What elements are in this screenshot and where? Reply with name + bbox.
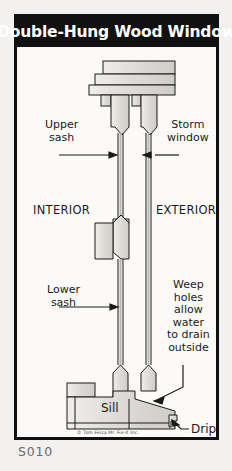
- interior-stop: [67, 383, 95, 397]
- label-exterior: EXTERIOR: [156, 204, 216, 217]
- leader-storm-window: [143, 152, 179, 158]
- label-lower-sash: Lower sash: [47, 284, 80, 309]
- leader-upper-sash: [59, 152, 117, 158]
- storm-bottom-rail: [141, 365, 156, 391]
- upper-sash-glazing-channel: [118, 133, 123, 219]
- label-weep-holes: Weep holes allow water to drain outside: [167, 279, 210, 354]
- label-storm-window: Storm window: [167, 119, 209, 144]
- lower-sash-glazing-channel: [118, 259, 123, 365]
- window-cross-section-illustration: Upper sash Storm window INTERIOR EXTERIO…: [17, 47, 216, 437]
- figure-code: S010: [18, 444, 53, 459]
- storm-window-top-rail: [141, 95, 157, 135]
- diagram-card: Double-Hung Wood Window: [14, 14, 219, 440]
- head-jamb-assembly: [89, 61, 175, 95]
- storm-window-glazing-channel: [146, 133, 151, 365]
- meeting-rail-upper: [113, 219, 129, 259]
- upper-sash-top-rail: [111, 95, 129, 135]
- window-diagram-svg: [17, 47, 216, 437]
- credit-line: © Tom Feiza Mr. Fix-It Inc.: [77, 430, 139, 435]
- label-upper-sash: Upper sash: [45, 119, 78, 144]
- label-sill: Sill: [101, 402, 119, 415]
- title-banner: Double-Hung Wood Window: [17, 17, 216, 47]
- leader-weep-holes: [154, 365, 183, 404]
- page-title: Double-Hung Wood Window: [0, 23, 232, 41]
- label-drip: Drip: [191, 423, 216, 436]
- label-interior: INTERIOR: [33, 204, 90, 217]
- meeting-rail-lower: [95, 223, 113, 259]
